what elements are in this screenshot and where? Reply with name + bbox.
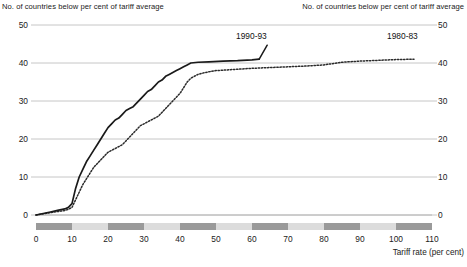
x-tick-label: 90: [348, 234, 372, 244]
y-tick-label-left: 20: [6, 134, 28, 144]
x-axis-title: Tariff rate (per cent): [393, 248, 464, 257]
band-dark: [324, 223, 360, 230]
y-tick-label-right: 30: [438, 96, 460, 106]
x-tick-label: 110: [420, 234, 444, 244]
y-tick-label-left: 0: [6, 210, 28, 220]
chart-container: No. of countries below per cent of tarif…: [0, 0, 467, 267]
band-dark: [396, 223, 432, 230]
x-tick-label: 80: [312, 234, 336, 244]
y-tick-label-left: 50: [6, 20, 28, 30]
band-dark: [108, 223, 144, 230]
y-tick-label-left: 30: [6, 96, 28, 106]
x-tick-label: 10: [60, 234, 84, 244]
x-axis-band-strip: [36, 223, 432, 230]
axis-tick-marks: [31, 25, 437, 215]
x-tick-label: 40: [168, 234, 192, 244]
y-tick-label-left: 40: [6, 58, 28, 68]
x-tick-label: 60: [240, 234, 264, 244]
gridlines: [36, 25, 432, 215]
series-line-1980-83: [36, 59, 414, 215]
y-tick-label-right: 0: [438, 210, 460, 220]
x-tick-label: 0: [24, 234, 48, 244]
band-dark: [36, 223, 72, 230]
y-tick-label-left: 10: [6, 172, 28, 182]
series-leader-line: [259, 45, 267, 59]
y-tick-label-right: 50: [438, 20, 460, 30]
series-line-1990-93: [36, 59, 259, 215]
y-tick-label-right: 10: [438, 172, 460, 182]
y-tick-label-right: 20: [438, 134, 460, 144]
x-tick-label: 20: [96, 234, 120, 244]
plot-area: [0, 0, 467, 267]
band-light: [36, 223, 432, 230]
x-tick-label: 30: [132, 234, 156, 244]
x-tick-label: 70: [276, 234, 300, 244]
x-tick-label: 50: [204, 234, 228, 244]
x-tick-label: 100: [384, 234, 408, 244]
band-dark: [180, 223, 216, 230]
band-dark: [252, 223, 288, 230]
y-tick-label-right: 40: [438, 58, 460, 68]
